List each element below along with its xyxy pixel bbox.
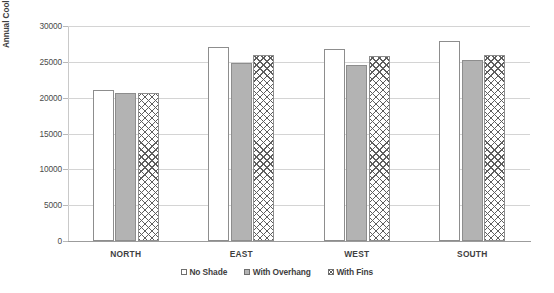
bar-east-with-overhang (231, 63, 252, 241)
bar-north-with-fins (138, 93, 159, 241)
bar-west-with-overhang (346, 65, 367, 241)
legend-swatch-icon (181, 269, 187, 275)
x-axis-label-north: NORTH (68, 249, 184, 259)
chart-legend: No ShadeWith OverhangWith Fins (0, 267, 554, 277)
x-axis-line (68, 241, 531, 242)
bar-east-no-shade (208, 47, 229, 241)
bar-north-no-shade (93, 90, 114, 241)
y-axis-tick-label: 5000 (0, 200, 62, 210)
legend-swatch-icon (328, 269, 334, 275)
y-axis-tick-label: 10000 (0, 164, 62, 174)
legend-item-with-overhang[interactable]: With Overhang (244, 267, 311, 277)
y-axis-tick-label: 25000 (0, 57, 62, 67)
x-axis-label-south: SOUTH (415, 249, 531, 259)
plot-area (68, 26, 530, 241)
legend-swatch-icon (244, 269, 250, 275)
x-axis-label-west: WEST (299, 249, 415, 259)
y-axis-tick-label: 20000 (0, 93, 62, 103)
legend-label: No Shade (189, 267, 227, 277)
bar-south-with-fins (484, 55, 505, 241)
x-axis-label-east: EAST (184, 249, 300, 259)
bar-south-with-overhang (462, 60, 483, 241)
y-axis-tick-label: 15000 (0, 129, 62, 139)
gridline (68, 26, 530, 27)
legend-label: With Overhang (253, 267, 311, 277)
y-axis-tick-label: 0 (0, 236, 62, 246)
legend-item-with-fins[interactable]: With Fins (328, 267, 373, 277)
legend-item-no-shade[interactable]: No Shade (181, 267, 227, 277)
gridline (68, 62, 530, 63)
cooling-energy-bar-chart: Annual Cooling Energy (kWh) 050001000015… (0, 0, 554, 293)
legend-label: With Fins (336, 267, 373, 277)
bar-east-with-fins (253, 55, 274, 241)
y-axis-tick-label: 30000 (0, 21, 62, 31)
bar-north-with-overhang (115, 93, 136, 241)
bar-west-no-shade (324, 49, 345, 241)
bar-west-with-fins (369, 56, 390, 241)
bar-south-no-shade (439, 41, 460, 241)
